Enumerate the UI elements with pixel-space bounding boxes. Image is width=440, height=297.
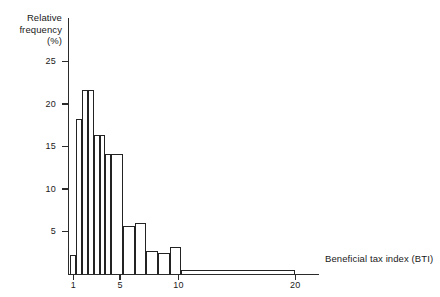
histogram-bar bbox=[158, 253, 170, 274]
y-axis-tick bbox=[62, 231, 69, 232]
y-axis-tick bbox=[62, 103, 69, 104]
y-axis-tick-label: 5 bbox=[30, 227, 56, 236]
x-axis-tick bbox=[295, 275, 296, 280]
y-axis-tick-label: 20 bbox=[30, 100, 56, 109]
histogram-bar bbox=[181, 270, 295, 274]
y-axis-tick-label: 25 bbox=[30, 57, 56, 66]
x-axis-tick-label: 1 bbox=[61, 280, 85, 290]
x-axis-tick bbox=[178, 275, 179, 280]
x-axis-tick-label: 20 bbox=[283, 280, 307, 290]
x-axis-tick bbox=[119, 275, 120, 280]
y-axis-tick bbox=[62, 188, 69, 189]
histogram-bar bbox=[170, 247, 182, 274]
y-axis-tick bbox=[62, 146, 69, 147]
histogram-bar bbox=[135, 223, 147, 274]
x-axis-title: Beneficial tax index (BTI) bbox=[325, 253, 433, 265]
x-axis-tick-label: 10 bbox=[167, 280, 191, 290]
x-axis-tick-label: 5 bbox=[108, 280, 132, 290]
histogram-bar bbox=[123, 226, 135, 274]
histogram-bar bbox=[111, 154, 123, 274]
y-axis-tick bbox=[62, 61, 69, 62]
histogram-chart: Relative frequency (%) 510152025151020 B… bbox=[0, 0, 440, 297]
y-axis-tick-label: 10 bbox=[30, 185, 56, 194]
histogram-bar bbox=[146, 251, 158, 274]
x-axis-tick bbox=[73, 275, 74, 280]
y-axis-tick-label: 15 bbox=[30, 142, 56, 151]
